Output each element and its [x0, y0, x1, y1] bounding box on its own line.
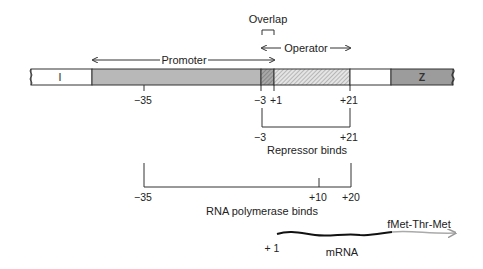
repressor-bracket: [262, 108, 350, 127]
pos-plus21: +21: [340, 95, 358, 106]
spacer-segment: [350, 69, 391, 85]
repressor-left-pos: −3: [254, 132, 266, 143]
polymerase-left-pos: −35: [134, 192, 152, 203]
polymerase-right-pos: +20: [342, 192, 360, 203]
polymerase-label: RNA polymerase binds: [206, 206, 318, 217]
polymerase-bracket: [144, 163, 351, 187]
mrna-strand: [277, 231, 455, 235]
operator-segment: [274, 69, 350, 85]
mrna-start-pos: + 1: [265, 243, 280, 254]
overlap-label: Overlap: [249, 14, 288, 25]
mrna-label: mRNA: [326, 247, 358, 258]
promoter-segment: [92, 69, 261, 85]
gene-i-label: I: [59, 72, 62, 83]
pos-minus35: −35: [134, 95, 152, 106]
repressor-right-pos: +21: [340, 132, 358, 143]
overlap-bracket: [262, 30, 274, 35]
pos-minus3: −3: [254, 95, 266, 106]
position-ticks: [144, 85, 350, 91]
promoter-label: Promoter: [161, 55, 206, 66]
pos-plus1: +1: [270, 95, 282, 106]
repressor-label: Repressor binds: [267, 145, 347, 156]
peptide-label: fMet-Thr-Met: [387, 219, 451, 230]
polymerase-mid-pos: +10: [309, 192, 327, 203]
gene-i-segment: [31, 69, 92, 85]
operator-label: Operator: [284, 43, 327, 54]
gene-z-label: Z: [419, 72, 425, 83]
dna-bar: [30, 69, 454, 85]
overlap-segment: [261, 69, 274, 85]
